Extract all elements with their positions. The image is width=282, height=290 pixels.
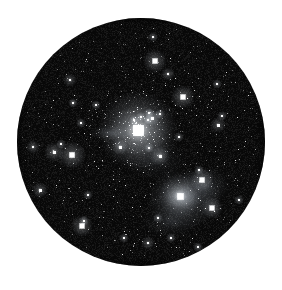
astronomical-plate-figure [0,0,282,290]
emulsion-grain-layer [17,18,265,266]
sky-field-disc [17,18,265,266]
